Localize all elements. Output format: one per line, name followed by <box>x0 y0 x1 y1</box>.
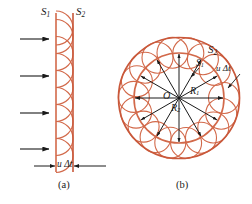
panel-a-label-s1: S1 <box>41 6 50 19</box>
panel-a-caption: (a) <box>58 180 70 191</box>
panel-b-caption: (b) <box>176 180 188 191</box>
panel-b-label-r1: R1 <box>190 86 199 97</box>
panel-b-label-r2: R2 <box>171 103 180 114</box>
figure-canvas <box>0 0 252 204</box>
figure-huygens-principle: S1 S2 u Δt (a) S2 S1 u Δt O R1 R2 (b) <box>0 0 252 204</box>
panel-a-plane-wave <box>20 11 106 173</box>
panel-b-radial-rays <box>135 54 223 142</box>
panel-b-label-s2: S2 <box>208 44 217 57</box>
panel-b-spherical-wave <box>118 37 240 158</box>
panel-a-secondary-wavelets <box>56 11 73 173</box>
panel-b-label-center-o: O <box>163 91 170 101</box>
panel-a-label-s2: S2 <box>76 6 85 19</box>
panel-b-label-distance: u Δt <box>216 64 231 73</box>
panel-a-incoming-rays <box>20 39 49 149</box>
panel-b-label-s1: S1 <box>196 59 204 69</box>
panel-a-label-distance: u Δt <box>57 160 72 170</box>
